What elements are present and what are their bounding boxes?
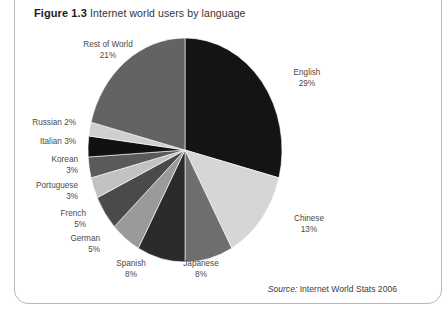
- pie-label-german-pct: 5%: [38, 245, 100, 256]
- pie-label-chinese-name: Chinese: [278, 214, 340, 225]
- pie-label-rest-of-world-name: Rest of World: [62, 40, 154, 51]
- pie-label-japanese-name: Japanese: [168, 259, 234, 270]
- pie-label-italian-pct: 3%: [64, 137, 76, 146]
- pie-label-korean-pct: 3%: [16, 166, 78, 177]
- pie-label-portuguese-name: Portuguese: [6, 181, 78, 192]
- pie-label-chinese-pct: 13%: [278, 225, 340, 236]
- pie-label-russian: Russian 2%: [6, 118, 76, 129]
- source-value: Internet World Stats 2006: [297, 284, 397, 294]
- pie-label-italian-name: Italian: [40, 137, 62, 146]
- pie-label-spanish: Spanish 8%: [100, 259, 162, 280]
- pie-label-german-name: German: [38, 234, 100, 245]
- pie-label-spanish-pct: 8%: [100, 270, 162, 281]
- source-label: Source:: [268, 284, 298, 294]
- source-note: Source: Internet World Stats 2006: [268, 284, 397, 294]
- pie-label-japanese: Japanese 8%: [168, 259, 234, 280]
- pie-label-rest-of-world-pct: 21%: [62, 51, 154, 62]
- pie-label-korean: Korean 3%: [16, 155, 78, 176]
- pie-label-french: French 5%: [24, 209, 86, 230]
- pie-label-portuguese: Portuguese 3%: [6, 181, 78, 202]
- pie-label-japanese-pct: 8%: [168, 270, 234, 281]
- pie-label-italian: Italian 3%: [10, 137, 76, 148]
- pie-label-spanish-name: Spanish: [100, 259, 162, 270]
- pie-label-russian-name: Russian: [32, 118, 62, 127]
- pie-label-russian-pct: 2%: [64, 118, 76, 127]
- pie-slice-group: [88, 38, 282, 262]
- pie-label-english-name: English: [276, 68, 338, 79]
- pie-label-korean-name: Korean: [16, 155, 78, 166]
- pie-label-english: English 29%: [276, 68, 338, 89]
- pie-label-german: German 5%: [38, 234, 100, 255]
- pie-label-english-pct: 29%: [276, 79, 338, 90]
- pie-label-rest-of-world: Rest of World 21%: [62, 40, 154, 61]
- pie-label-french-name: French: [24, 209, 86, 220]
- pie-label-chinese: Chinese 13%: [278, 214, 340, 235]
- pie-label-portuguese-pct: 3%: [6, 192, 78, 203]
- pie-label-french-pct: 5%: [24, 220, 86, 231]
